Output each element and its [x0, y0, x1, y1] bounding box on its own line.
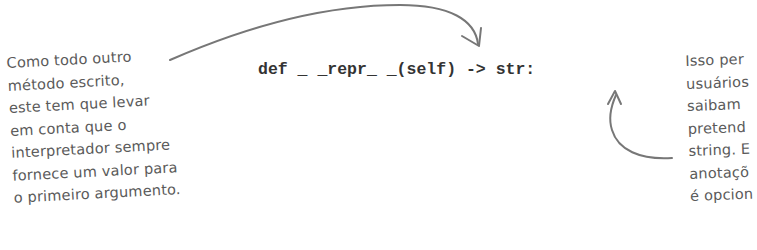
- right-annotation: Isso per usuários saibam pretend string.…: [685, 48, 754, 208]
- annotation-line: pretend: [687, 115, 751, 140]
- annotation-line: usuários: [686, 70, 750, 95]
- left-annotation: Como todo outro método escrito, este tem…: [6, 43, 181, 209]
- arrow-to-str-icon: [608, 91, 672, 158]
- code-signature: def _ _repr_ _(self) -> str:: [258, 60, 535, 79]
- annotation-line: Isso per: [685, 48, 749, 73]
- annotation-line: string. E: [688, 138, 752, 163]
- annotation-line: é opcion: [690, 183, 754, 208]
- arrow-to-self-icon: [170, 5, 481, 60]
- annotation-line: saibam: [687, 93, 751, 118]
- annotation-line: anotaçõ: [689, 160, 753, 185]
